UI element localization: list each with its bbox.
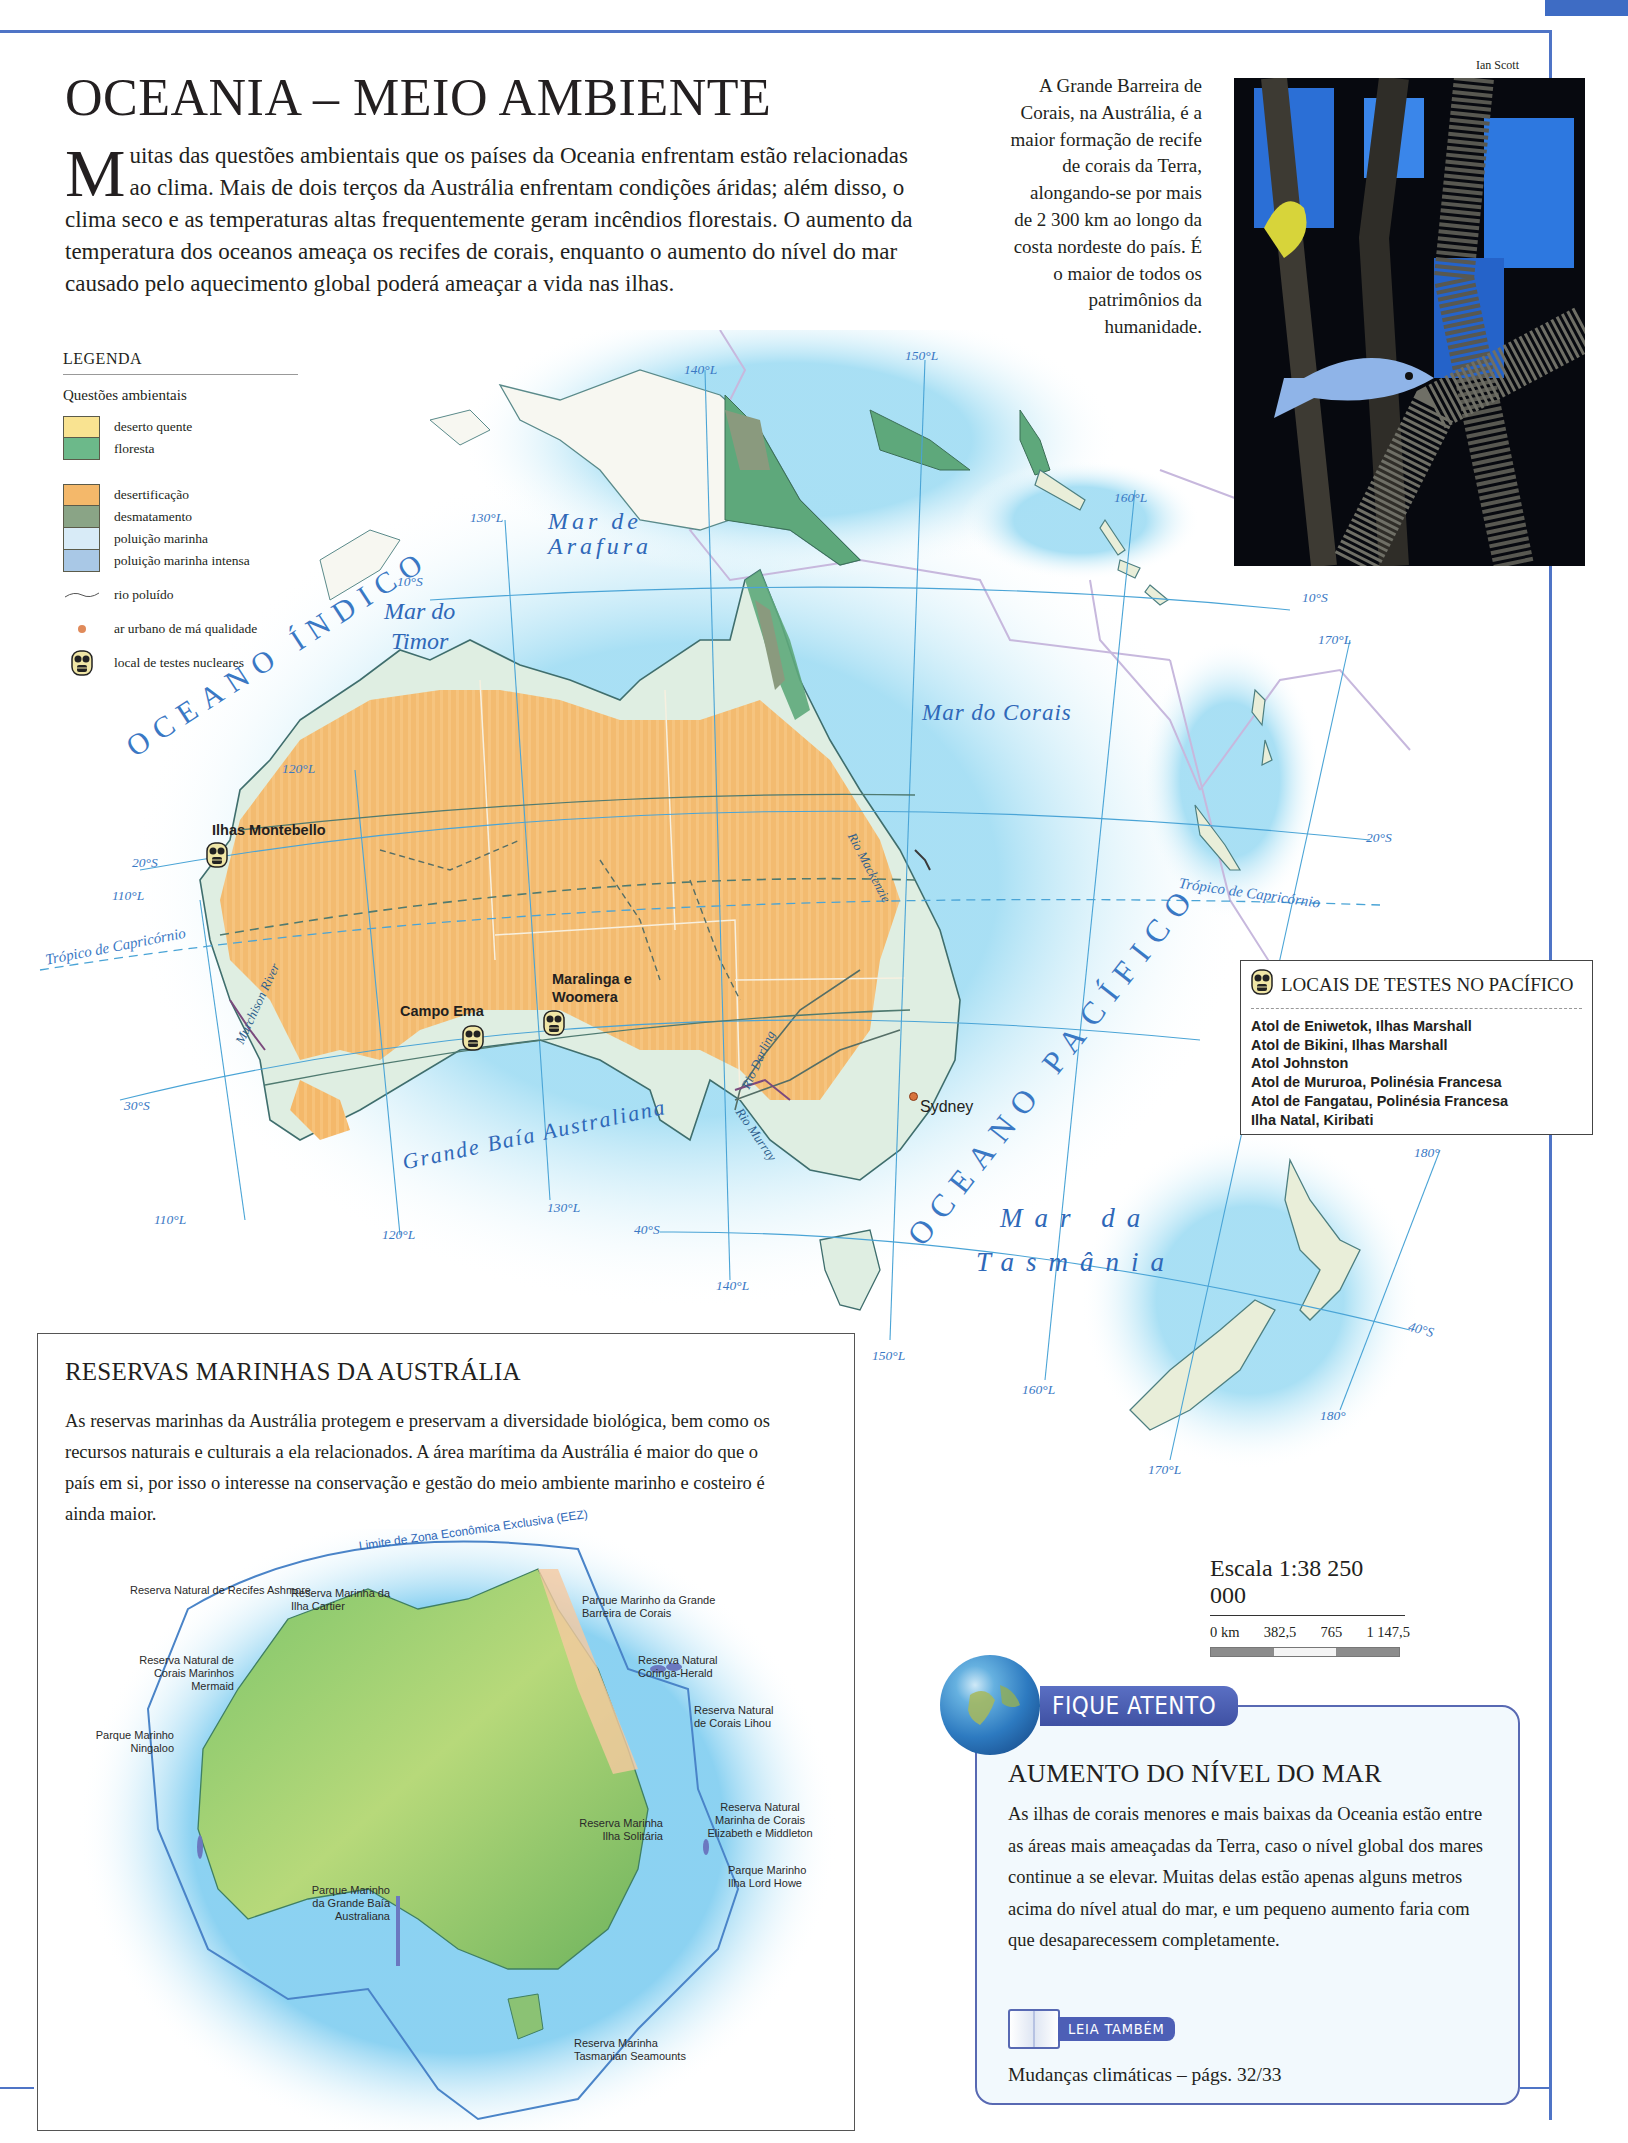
legend-item-ar-urbano: ar urbano de má qualidade [63,618,303,640]
swatch-floresta [63,438,100,460]
legend-item-rio-poluido: rio poluído [63,584,303,606]
scale-bar [1210,1647,1400,1657]
polluted-river-icon [63,590,100,600]
map-legend: LEGENDA Questões ambientais deserto quen… [63,350,303,674]
nuclear-site-icon [462,1025,484,1055]
legend-item-poluicao-marinha: poluição marinha [63,528,303,550]
fique-atento-box: AUMENTO DO NÍVEL DO MAR As ilhas de cora… [975,1705,1520,2105]
coord-150: 150°L [872,1348,905,1364]
label-mar-da-tasmania: Mar da Tasmânia [996,1196,1176,1284]
reserve-label-coringa-herald: Reserva Natural Coringa-Herald [638,1654,728,1680]
coord-150: 150°L [905,348,938,364]
list-item: Atol de Bikini, Ilhas Marshall [1251,1036,1582,1055]
coord-20s: 20°S [132,855,158,871]
urban-air-dot-icon [909,1092,918,1101]
marine-reserves-panel: RESERVAS MARINHAS DA AUSTRÁLIA As reserv… [37,1333,855,2131]
reserves-title: RESERVAS MARINHAS DA AUSTRÁLIA [65,1358,521,1386]
swatch-desertificacao [63,484,100,506]
coord-170: 170°L [1148,1462,1181,1478]
coord-120: 120°L [382,1227,415,1243]
scale-title: Escala 1:38 250 000 [1210,1555,1405,1616]
label-maralinga-woomera: Maralinga e Woomera [552,970,632,1006]
reserves-text: As reservas marinhas da Austrália proteg… [65,1406,785,1530]
reserve-label-cartier: Reserva Marinha da Ilha Cartier [291,1587,391,1613]
swatch-deserto-quente [63,416,100,438]
label-campo-ema: Campo Ema [400,1003,484,1019]
legend-subtitle: Questões ambientais [63,387,303,404]
list-item: Atol de Fangatau, Polinésia Francesa [1251,1092,1582,1111]
fique-atento-tab: FIQUE ATENTO [1040,1686,1238,1726]
list-item: Ilha Natal, Kiribati [1251,1111,1582,1130]
coord-110: 110°L [112,888,144,904]
coord-40s: 40°S [634,1222,660,1238]
urban-air-dot-icon [63,625,100,633]
reserve-label-lord-howe: Parque Marinho Ilha Lord Howe [728,1864,818,1890]
list-item: Atol de Eniwetok, Ilhas Marshall [1251,1017,1582,1036]
coord-160: 160°L [1022,1382,1055,1398]
reserve-label-lihou: Reserva Natural de Corais Lihou [694,1704,784,1730]
scale-tick: 0 km [1210,1624,1239,1641]
leia-tambem-badge: LEIA TAMBÉM [1008,2009,1175,2049]
pacific-tests-title: LOCAIS DE TESTES NO PACÍFICO [1251,969,1582,1009]
frame-bottom [1520,2087,1552,2089]
legend-item-desmatamento: desmatamento [63,506,303,528]
coord-20s: 20°S [1366,830,1392,846]
frame-top [0,30,1552,33]
legend-item-desertificacao: desertificação [63,484,303,506]
legend-item-deserto-quente: deserto quente [63,416,303,438]
reserve-label-ilha-solitaria: Reserva Marinha Ilha Solitária [578,1817,663,1843]
coord-130: 130°L [470,510,503,526]
reserve-label-elizabeth-middleton: Reserva Natural Marinha de Corais Elizab… [700,1801,820,1840]
map-scale: Escala 1:38 250 000 0 km 382,5 765 1 147… [1210,1555,1410,1657]
swatch-poluicao-intensa [63,550,100,572]
globe-icon [940,1655,1040,1755]
legend-item-testes-nucleares: local de testes nucleares [63,652,303,674]
book-icon [1008,2009,1060,2049]
coord-30s: 30°S [124,1098,150,1114]
leia-tambem-reference: Mudanças climáticas – págs. 32/33 [1008,2064,1281,2086]
coord-160: 160°L [1114,490,1147,506]
photo-caption: A Grande Barreira de Corais, na Austráli… [1010,73,1202,341]
scale-tick: 765 [1321,1624,1343,1641]
label-ilhas-montebello: Ilhas Montebello [212,822,326,838]
coral-reef-photo [1234,78,1585,566]
reserve-label-grande-baia: Parque Marinho da Grande Baía Australian… [300,1884,390,1923]
frame-bottom [0,2087,34,2089]
page-corner-tab [1545,0,1628,16]
nuclear-site-icon [1251,969,1273,1000]
fique-title: AUMENTO DO NÍVEL DO MAR [1008,1759,1382,1789]
swatch-desmatamento [63,506,100,528]
reserve-label-tasmanian-seamounts: Reserva Marinha Tasmanian Seamounts [574,2037,694,2063]
fique-text: As ilhas de corais menores e mais baixas… [1008,1799,1498,1957]
photo-credit: Ian Scott [1476,58,1519,73]
label-sydney: Sydney [920,1098,973,1116]
reserve-label-grande-barreira: Parque Marinho da Grande Barreira de Cor… [582,1594,722,1620]
page-title: OCEANIA – MEIO AMBIENTE [65,68,771,127]
list-item: Atol de Mururoa, Polinésia Francesa [1251,1073,1582,1092]
label-mar-de-arafura: Mar de Arafura [548,508,652,560]
legend-item-poluicao-intensa: poluição marinha intensa [63,550,303,572]
label-mar-do-corais: Mar do Corais [922,700,1072,726]
nuclear-site-icon [63,650,100,676]
coord-120: 120°L [282,761,315,777]
coord-140: 140°L [716,1278,749,1294]
coord-10s: 10°S [1302,590,1328,606]
nuclear-site-icon [206,842,228,872]
coord-180: 180° [1414,1145,1440,1161]
label-mar-do-timor: Mar do Timor [384,596,455,656]
nuclear-site-icon [543,1010,565,1040]
legend-title: LEGENDA [63,350,298,375]
pacific-tests-box: LOCAIS DE TESTES NO PACÍFICO Atol de Eni… [1240,960,1593,1135]
coord-130: 130°L [547,1200,580,1216]
intro-paragraph: Muitas das questões ambientais que os pa… [65,140,935,300]
coord-180: 180° [1320,1408,1346,1424]
scale-tick: 382,5 [1264,1624,1297,1641]
coord-140: 140°L [684,362,717,378]
scale-tick: 1 147,5 [1366,1624,1410,1641]
swatch-poluicao-marinha [63,528,100,550]
coord-10s: 10°S [397,574,423,590]
marine-reserves-map: Limite de Zona Econômica Exclusiva (EEZ)… [38,1529,855,2131]
reserve-label-mermaid: Reserva Natural de Corais Marinhos Merma… [124,1654,234,1693]
coord-110: 110°L [154,1212,186,1228]
reserve-label-ningaloo: Parque Marinho Ningaloo [86,1729,174,1755]
